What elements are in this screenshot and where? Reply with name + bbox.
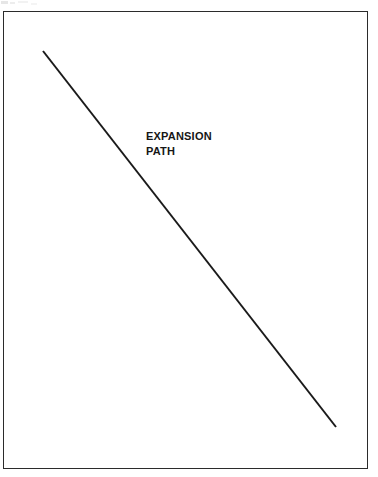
figure-canvas: EXPANSION PATH (0, 0, 378, 477)
expansion-path-label: EXPANSION PATH (146, 129, 212, 159)
expansion-path-line (43, 51, 336, 427)
plot-area (0, 0, 378, 477)
expansion-path-label-line1: EXPANSION (146, 129, 212, 144)
expansion-path-label-line2: PATH (146, 144, 212, 159)
